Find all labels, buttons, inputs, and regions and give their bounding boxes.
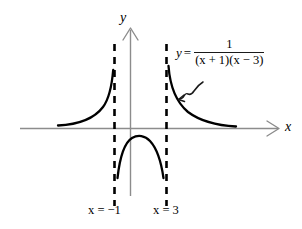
graph-figure: y x y = 1 (x + 1)(x − 3) x = −1 x = 3 (0, 0, 302, 229)
fraction-denominator: (x + 1)(x − 3) (194, 53, 264, 67)
equation-label: y = 1 (x + 1)(x − 3) (176, 38, 264, 67)
y-axis (123, 28, 138, 196)
curved-pointer-arrow-icon (179, 82, 204, 102)
equation-lhs: y (176, 45, 184, 61)
fraction-numerator: 1 (222, 38, 236, 52)
x-axis-label: x (285, 119, 291, 135)
curve-right-branch (169, 66, 237, 127)
curve-left-branch (58, 70, 113, 126)
equation-equals-sign: = (184, 45, 194, 61)
asymptote-label-x-equals-3: x = 3 (153, 203, 179, 218)
rational-function-plot (0, 0, 302, 229)
curve-middle-branch (118, 136, 164, 178)
asymptote-label-x-equals-minus-1: x = −1 (88, 203, 121, 218)
equation-fraction: 1 (x + 1)(x − 3) (194, 38, 264, 67)
x-axis (20, 121, 279, 136)
y-axis-label: y (120, 10, 126, 26)
